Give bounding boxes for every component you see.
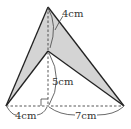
right-angle-mark [41, 99, 48, 106]
label-right-base: 7cm [75, 110, 97, 121]
label-left-base: 4cm [15, 110, 37, 121]
label-height: 5cm [52, 76, 74, 87]
shaded-region [6, 7, 124, 106]
geometry-figure: 4cm 5cm 4cm 7cm [0, 0, 131, 129]
label-top-length: 4cm [62, 8, 84, 19]
